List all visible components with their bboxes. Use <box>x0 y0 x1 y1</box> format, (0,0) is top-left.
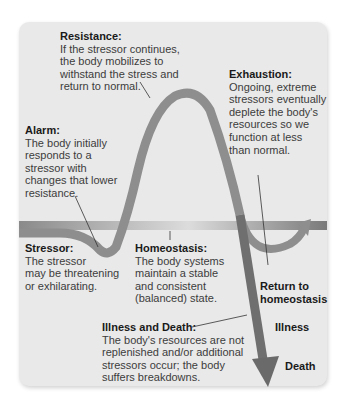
death-label: Death <box>285 360 316 373</box>
exhaustion-label: Exhaustion: Ongoing, extreme stressors e… <box>229 68 326 156</box>
illness-label: Illness <box>275 321 309 334</box>
alarm-label: Alarm: The body initially responds to a … <box>25 124 117 200</box>
illness-death-label: Illness and Death: The body's resources … <box>102 321 244 384</box>
homeostasis-label: Homeostasis: The body systems maintain a… <box>135 242 224 305</box>
homeostasis-baseline <box>19 221 327 230</box>
resistance-label: Resistance: If the stressor continues, t… <box>60 30 180 93</box>
return-to-homeostasis-arrow <box>240 215 304 249</box>
death-arrowhead <box>252 356 279 387</box>
stressor-label: Stressor: The stressor may be threatenin… <box>25 242 119 292</box>
return-to-homeostasis-label: Return to homeostasis <box>260 280 327 305</box>
